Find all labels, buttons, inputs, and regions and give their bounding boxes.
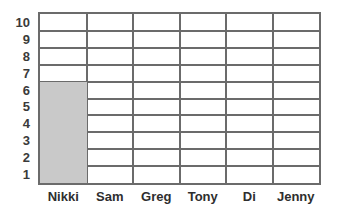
x-category-label: Jenny <box>273 190 320 203</box>
x-axis-category-labels: NikkiSamGregTonyDiJenny <box>38 190 321 212</box>
y-tick-label: 3 <box>23 134 30 147</box>
y-axis-tick-labels: 10987654321 <box>0 12 34 185</box>
y-tick-label: 9 <box>23 33 30 46</box>
plot-area-wrapper <box>38 12 321 185</box>
y-tick-label: 4 <box>23 117 30 130</box>
y-tick-label: 10 <box>16 16 30 29</box>
y-tick-label: 7 <box>23 67 30 80</box>
bar-chart: 10987654321 NikkiSamGregTonyDiJenny <box>0 0 338 217</box>
x-category-label: Nikki <box>40 190 87 203</box>
bars-layer <box>40 14 319 183</box>
y-tick-label: 2 <box>23 151 30 164</box>
y-tick-label: 6 <box>23 84 30 97</box>
x-category-label: Tony <box>180 190 227 203</box>
x-category-label: Di <box>226 190 273 203</box>
x-category-label: Greg <box>133 190 180 203</box>
plot-area <box>38 12 321 185</box>
x-category-label: Sam <box>87 190 134 203</box>
y-tick-label: 8 <box>23 50 30 63</box>
y-tick-label: 5 <box>23 100 30 113</box>
bar-nikki <box>40 82 87 183</box>
y-tick-label: 1 <box>23 168 30 181</box>
